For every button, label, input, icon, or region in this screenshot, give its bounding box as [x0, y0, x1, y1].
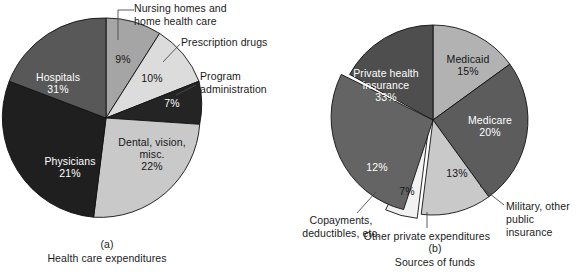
- label-medicare-pct: 20%: [479, 126, 500, 138]
- label-medicaid-name: Medicaid: [447, 53, 490, 65]
- label-hospitals-name: Hospitals: [36, 71, 80, 83]
- label-other-private-pct: 7%: [399, 185, 414, 197]
- pie-chart-a: 9% 10% 7% Dental, vision, misc. 22% Phys…: [2, 10, 201, 217]
- caption-text-b: Sources of funds: [370, 256, 500, 269]
- label-dental-pct: 22%: [141, 160, 162, 172]
- callout-military-other-public-insurance: Military, other public insurance: [506, 200, 579, 239]
- label-physicians-name: Physicians: [44, 155, 95, 167]
- label-private-name-1: Private health: [353, 67, 419, 79]
- label-program-pct: 7%: [164, 97, 179, 109]
- caption-letter-b: (b): [380, 242, 490, 255]
- label-medicaid-pct: 15%: [457, 65, 478, 77]
- label-military-pct: 13%: [446, 167, 467, 179]
- label-private-name-2: insurance: [363, 79, 409, 91]
- two-pie-chart-figure: 9% 10% 7% Dental, vision, misc. 22% Phys…: [0, 0, 579, 272]
- label-dental-name-1: Dental, vision,: [118, 136, 185, 148]
- label-nursing-pct: 9%: [115, 53, 130, 65]
- label-physicians-pct: 21%: [59, 167, 80, 179]
- label-dental-name-2: misc.: [140, 148, 165, 160]
- caption-letter-a: (a): [52, 238, 162, 251]
- label-hospitals-pct: 31%: [47, 83, 68, 95]
- callout-prescription-drugs: Prescription drugs: [181, 36, 267, 49]
- pie-chart-b: Medicaid 15% Medicare 20% 13% 7% 12% Pri…: [331, 25, 528, 228]
- callout-program-administration: Program administration: [200, 70, 267, 96]
- label-private-pct: 33%: [375, 91, 396, 103]
- caption-text-a: Health care expenditures: [22, 252, 192, 265]
- label-medicare-name: Medicare: [468, 114, 512, 126]
- leader-line-copayments: [357, 192, 376, 213]
- label-copayments-pct: 12%: [366, 161, 387, 173]
- label-prescription-pct: 10%: [141, 72, 162, 84]
- callout-nursing-homes: Nursing homes and home health care: [134, 2, 227, 28]
